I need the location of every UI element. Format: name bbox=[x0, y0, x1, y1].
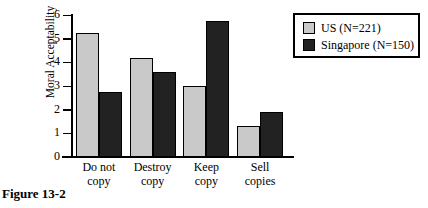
figure-13-2: Moral Acceptability 0123456 Do notcopyDe… bbox=[0, 0, 428, 208]
legend: US (N=221) Singapore (N=150) bbox=[293, 13, 420, 58]
y-axis-tick-label: 1 bbox=[38, 126, 60, 138]
bars-layer bbox=[72, 15, 287, 157]
y-axis-tick-label: 6 bbox=[38, 8, 60, 20]
bar bbox=[183, 86, 206, 157]
y-axis-tick bbox=[63, 86, 72, 88]
y-axis-tick bbox=[63, 38, 72, 40]
x-axis-category-label-line: copies bbox=[217, 175, 303, 189]
y-axis-tick bbox=[63, 133, 72, 135]
bar bbox=[260, 112, 283, 157]
x-axis-category-label: Sellcopies bbox=[217, 161, 303, 188]
y-axis-tick bbox=[63, 157, 72, 159]
bar bbox=[206, 21, 229, 157]
x-axis-category-label-line: Sell bbox=[217, 161, 303, 175]
plot-area bbox=[72, 15, 287, 157]
y-axis-tick-label: 2 bbox=[38, 103, 60, 115]
y-axis-tick bbox=[63, 109, 72, 111]
figure-caption: Figure 13-2 bbox=[2, 186, 66, 201]
legend-swatch-singapore-icon bbox=[303, 39, 315, 51]
legend-item-singapore: Singapore (N=150) bbox=[303, 38, 414, 52]
bar bbox=[76, 33, 99, 157]
legend-label-us: US (N=221) bbox=[321, 22, 381, 35]
y-axis-tick-label: 3 bbox=[38, 79, 60, 91]
bar bbox=[153, 72, 176, 157]
y-axis-tick bbox=[63, 62, 72, 64]
bar bbox=[130, 58, 153, 157]
y-axis-tick bbox=[63, 15, 72, 17]
legend-item-us: US (N=221) bbox=[303, 21, 381, 35]
y-axis-tick-label: 4 bbox=[38, 55, 60, 67]
y-axis-tick-label: 5 bbox=[38, 32, 60, 44]
legend-swatch-us-icon bbox=[303, 22, 315, 34]
legend-label-singapore: Singapore (N=150) bbox=[321, 39, 414, 52]
y-axis-title-container: Moral Acceptability bbox=[18, 38, 34, 138]
bar bbox=[237, 126, 260, 157]
bar bbox=[99, 92, 122, 157]
